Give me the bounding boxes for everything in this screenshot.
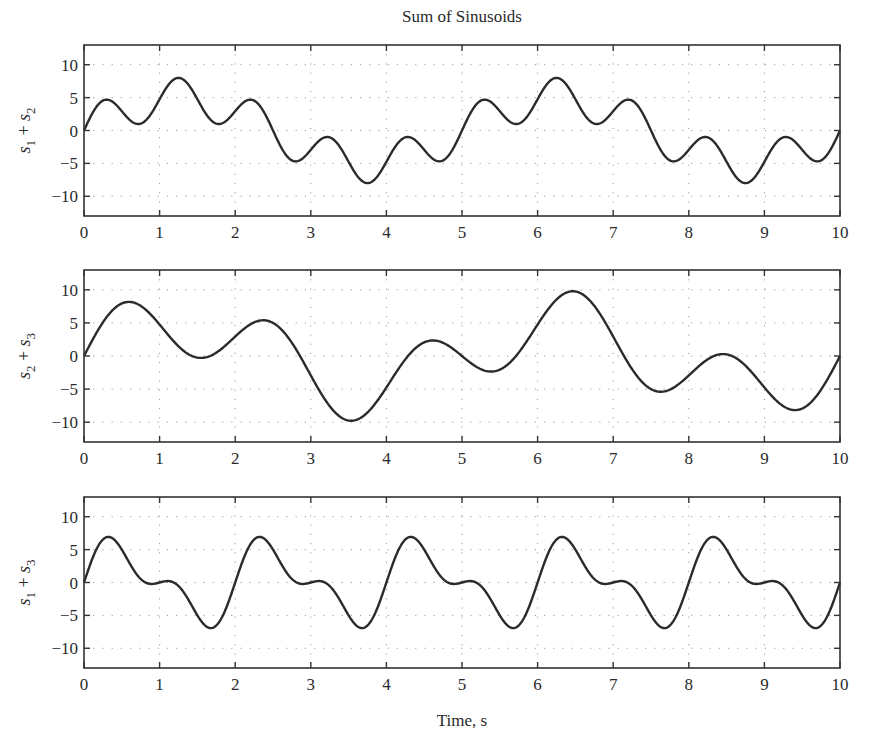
y-tick-label: 5 (70, 541, 79, 560)
y-tick-label: 5 (70, 89, 79, 108)
sum-of-sinusoids-figure: Sum of Sinusoids 0123456789101050−5−10s1… (0, 0, 872, 734)
x-tick-label: 7 (609, 675, 618, 694)
y-tick-label: 10 (61, 508, 78, 527)
x-tick-label: 4 (382, 223, 391, 242)
x-tick-label: 6 (533, 449, 542, 468)
y-tick-label: −5 (60, 154, 78, 173)
x-tick-label: 7 (609, 449, 618, 468)
y-tick-label: 0 (70, 574, 79, 593)
x-tick-label: 6 (533, 675, 542, 694)
figure-title: Sum of Sinusoids (402, 7, 522, 26)
y-tick-label: −10 (51, 413, 78, 432)
x-tick-label: 1 (155, 675, 164, 694)
y-axis-label: s2 + s3 (14, 333, 38, 379)
y-tick-label: 0 (70, 122, 79, 141)
x-tick-label: 10 (832, 675, 849, 694)
y-tick-label: 10 (61, 56, 78, 75)
x-tick-label: 8 (685, 223, 694, 242)
x-tick-label: 10 (832, 223, 849, 242)
x-tick-label: 7 (609, 223, 618, 242)
x-tick-label: 1 (155, 449, 164, 468)
x-tick-label: 5 (458, 675, 467, 694)
x-tick-label: 0 (80, 675, 89, 694)
data-line (84, 291, 840, 421)
x-tick-label: 10 (832, 449, 849, 468)
subplot-3: 0123456789101050−5−10s1 + s3 (14, 497, 849, 694)
subplot-1: 0123456789101050−5−10s1 + s2 (14, 45, 849, 242)
x-tick-label: 3 (307, 223, 316, 242)
y-axis-label: s1 + s3 (14, 559, 38, 605)
data-line (84, 537, 840, 628)
x-tick-label: 9 (760, 223, 769, 242)
x-tick-label: 0 (80, 223, 89, 242)
x-tick-label: 4 (382, 675, 391, 694)
y-tick-label: 10 (61, 281, 78, 300)
y-axis-label: s1 + s2 (14, 107, 38, 153)
y-tick-label: −10 (51, 187, 78, 206)
y-tick-label: 5 (70, 314, 79, 333)
y-tick-label: −5 (60, 380, 78, 399)
x-axis-label: Time, s (437, 711, 487, 730)
x-tick-label: 2 (231, 449, 240, 468)
x-tick-label: 8 (685, 675, 694, 694)
x-tick-label: 4 (382, 449, 391, 468)
x-tick-label: 2 (231, 223, 240, 242)
y-tick-label: −5 (60, 606, 78, 625)
x-tick-label: 5 (458, 449, 467, 468)
x-tick-label: 2 (231, 675, 240, 694)
y-tick-label: 0 (70, 347, 79, 366)
x-tick-label: 3 (307, 675, 316, 694)
x-tick-label: 3 (307, 449, 316, 468)
x-tick-label: 9 (760, 449, 769, 468)
data-line (84, 78, 840, 183)
x-tick-label: 0 (80, 449, 89, 468)
subplot-panels: 0123456789101050−5−10s1 + s2012345678910… (14, 45, 849, 694)
x-tick-label: 8 (685, 449, 694, 468)
y-tick-label: −10 (51, 639, 78, 658)
x-tick-label: 6 (533, 223, 542, 242)
subplot-2: 0123456789101050−5−10s2 + s3 (14, 270, 849, 468)
x-tick-label: 1 (155, 223, 164, 242)
x-tick-label: 9 (760, 675, 769, 694)
x-tick-label: 5 (458, 223, 467, 242)
